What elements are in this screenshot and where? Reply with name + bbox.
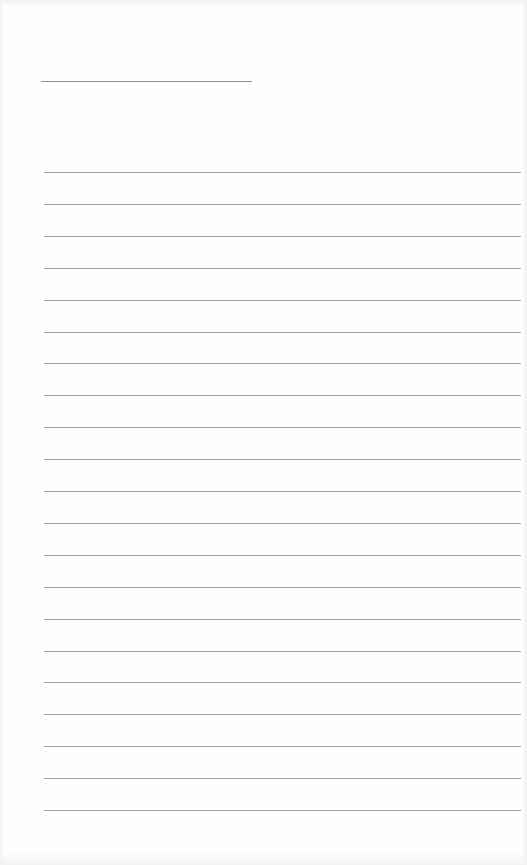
ruled-line[interactable] [44, 236, 521, 237]
ruled-line[interactable] [44, 523, 521, 524]
ruled-line[interactable] [44, 300, 521, 301]
lined-paper-page [0, 0, 527, 865]
ruled-line[interactable] [44, 714, 521, 715]
ruled-line[interactable] [44, 395, 521, 396]
ruled-line[interactable] [44, 682, 521, 683]
ruled-line[interactable] [44, 332, 521, 333]
ruled-line[interactable] [44, 172, 521, 173]
left-page-edge [0, 0, 4, 865]
ruled-line[interactable] [44, 555, 521, 556]
ruled-line[interactable] [44, 778, 521, 779]
ruled-lines-area [44, 0, 521, 865]
ruled-line[interactable] [44, 587, 521, 588]
ruled-line[interactable] [44, 651, 521, 652]
ruled-line[interactable] [44, 810, 521, 811]
ruled-line[interactable] [44, 204, 521, 205]
ruled-line[interactable] [44, 363, 521, 364]
ruled-line[interactable] [44, 268, 521, 269]
ruled-line[interactable] [44, 491, 521, 492]
right-page-edge [522, 0, 527, 865]
bottom-edge-bleed-through [0, 851, 527, 865]
ruled-line[interactable] [44, 619, 521, 620]
ruled-line[interactable] [44, 746, 521, 747]
ruled-line[interactable] [44, 459, 521, 460]
ruled-line[interactable] [44, 427, 521, 428]
